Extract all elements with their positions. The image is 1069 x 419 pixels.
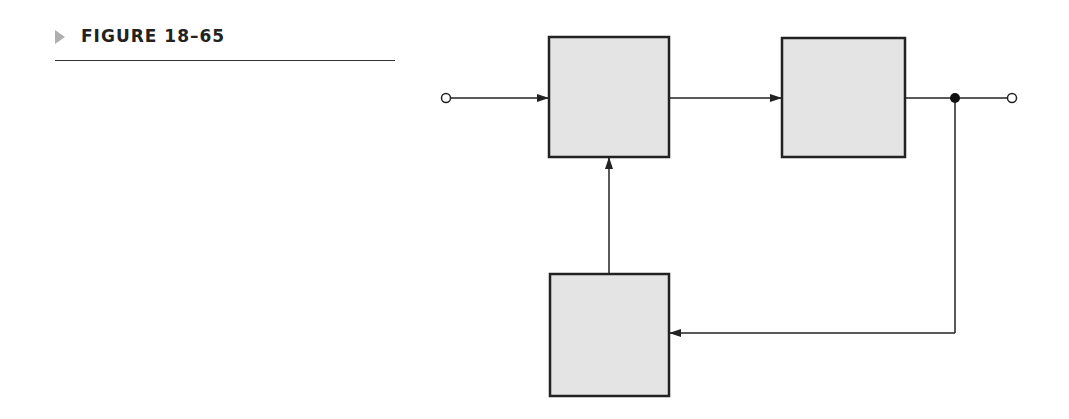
block-3: [550, 274, 669, 396]
block-1: [549, 37, 669, 157]
block-diagram: [0, 0, 1069, 419]
junction-dot-icon: [950, 93, 960, 103]
input-terminal-icon: [442, 94, 451, 103]
block-2: [782, 38, 905, 157]
output-terminal-icon: [1008, 94, 1017, 103]
